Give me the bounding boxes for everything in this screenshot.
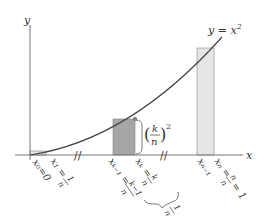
curve-label: y = x2: [207, 22, 242, 37]
svg-text:1: 1: [65, 174, 75, 183]
svg-text:n: n: [119, 187, 129, 196]
x-axis-label: x: [246, 149, 253, 162]
svg-text:xₙ₋₁: xₙ₋₁: [195, 156, 215, 178]
width-label: 1 n: [162, 201, 183, 219]
svg-text:(: (: [144, 125, 150, 144]
curve-point-k: [133, 117, 137, 121]
svg-text:= 1: = 1: [230, 180, 249, 201]
width-brace: [144, 192, 178, 208]
svg-text:n: n: [140, 178, 150, 187]
svg-text:2: 2: [166, 122, 171, 131]
svg-text:n: n: [219, 178, 229, 187]
tick-label-xn: xₙ = n n = 1: [207, 155, 251, 206]
axis-break-mark: //: [160, 149, 168, 162]
height-label: ( k n ) 2: [144, 122, 171, 147]
y-axis-label: y: [23, 14, 31, 27]
svg-text:n: n: [151, 136, 157, 147]
svg-text:1: 1: [172, 203, 182, 212]
height-brace: [136, 120, 142, 154]
svg-text:n: n: [162, 208, 172, 217]
last-rectangle: [197, 48, 214, 155]
svg-text:n: n: [56, 180, 66, 189]
axis-break-mark: //: [74, 149, 82, 162]
riemann-sum-diagram: y x y = x2 ( k n ) 2 // // x₀=0 x₁ = 1 n…: [0, 0, 265, 223]
tick-label-xn-1: xₙ₋₁: [195, 156, 215, 178]
svg-text:k: k: [152, 123, 158, 134]
